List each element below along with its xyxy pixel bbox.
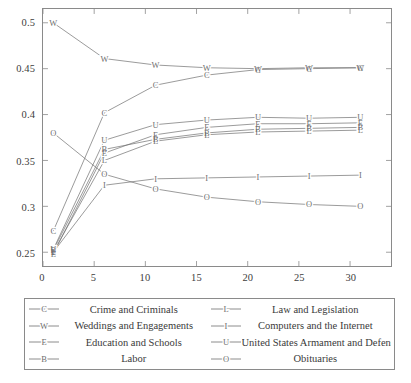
legend-item[interactable]: BBLabor — [28, 351, 210, 368]
legend-label: Weddings and Engagements — [60, 320, 210, 331]
legend-item[interactable]: LLLaw and Legislation — [210, 301, 392, 318]
legend-grid: CCCrime and CriminalsLLLaw and Legislati… — [25, 299, 394, 369]
x-tick-label: 5 — [91, 272, 96, 283]
svg-text:U: U — [222, 337, 228, 347]
x-tick-label: 15 — [191, 272, 202, 283]
legend-item[interactable]: WWWeddings and Engagements — [28, 318, 210, 335]
series-marker: U — [357, 112, 363, 122]
x-tick-label: 25 — [294, 272, 305, 283]
series-marker: O — [101, 169, 107, 179]
series-marker: W — [152, 60, 160, 70]
svg-text:E: E — [41, 337, 46, 347]
legend-label: Labor — [60, 353, 210, 364]
legend-label: Crime and Criminals — [60, 304, 210, 315]
series-marker: U — [255, 112, 261, 122]
series-line — [53, 175, 360, 252]
series-marker: I — [359, 170, 362, 180]
legend-marker-l-icon: LL — [210, 302, 242, 316]
legend-label: Education and Schools — [60, 337, 210, 348]
series-marker: O — [255, 197, 261, 207]
series-marker: O — [153, 184, 159, 194]
legend-label: Law and Legislation — [242, 304, 392, 315]
plot-canvas: CCCCCCCWWWWWWWEEEEEEEBBBBBBBLLLLLLLIIIII… — [43, 9, 391, 266]
x-tick-label: 0 — [39, 272, 44, 283]
series-line — [53, 123, 360, 254]
svg-text:W: W — [40, 321, 48, 331]
series-marker: W — [254, 64, 262, 74]
legend-marker-c-icon: CC — [28, 302, 60, 316]
legend-item[interactable]: IIComputers and the Internet — [210, 318, 392, 335]
y-tick-label: 0.25 — [0, 248, 35, 259]
legend-item[interactable]: CCCrime and Criminals — [28, 301, 210, 318]
series-line — [53, 127, 360, 250]
y-tick-label: 0.45 — [0, 63, 35, 74]
series-marker: U — [204, 115, 210, 125]
legend-marker-i-icon: II — [210, 319, 242, 333]
series-marker: U — [153, 120, 159, 130]
series-marker: C — [102, 108, 108, 118]
svg-text:C: C — [41, 304, 47, 314]
series-marker: I — [154, 174, 157, 184]
legend-label: United States Armament and Defense — [242, 337, 392, 348]
series-marker: W — [203, 63, 211, 73]
svg-text:O: O — [222, 354, 228, 364]
series-marker: U — [306, 113, 312, 123]
series-marker: L — [358, 125, 363, 135]
y-tick-label: 0.5 — [0, 16, 35, 27]
legend-marker-o-icon: OO — [210, 352, 242, 366]
series-marker: L — [153, 136, 158, 146]
legend-marker-b-icon: BB — [28, 352, 60, 366]
series-marker: O — [306, 200, 312, 210]
chart-page: CCCCCCCWWWWWWWEEEEEEEBBBBBBBLLLLLLLIIIII… — [0, 0, 411, 383]
series-marker: W — [356, 63, 364, 73]
series-marker: W — [49, 18, 57, 28]
series-marker: I — [308, 171, 311, 181]
y-tick-label: 0.4 — [0, 109, 35, 120]
svg-text:B: B — [41, 354, 47, 364]
legend-item[interactable]: EEEducation and Schools — [28, 334, 210, 351]
x-tick-label: 10 — [140, 272, 151, 283]
svg-text:I: I — [224, 321, 227, 331]
series-marker: C — [153, 80, 159, 90]
series-marker: L — [204, 130, 209, 140]
series-marker: B — [102, 144, 108, 154]
y-tick-label: 0.35 — [0, 155, 35, 166]
plot-area: CCCCCCCWWWWWWWEEEEEEEBBBBBBBLLLLLLLIIIII… — [42, 8, 392, 267]
series-marker: I — [257, 172, 260, 182]
series-marker: I — [103, 180, 106, 190]
x-tick-label: 20 — [243, 272, 254, 283]
series-marker: L — [102, 155, 107, 165]
legend-label: Computers and the Internet — [242, 320, 392, 331]
series-marker: U — [50, 244, 56, 254]
series-marker: W — [305, 63, 313, 73]
legend-item[interactable]: OOObituaries — [210, 351, 392, 368]
series-marker: U — [101, 135, 107, 145]
series-marker: W — [100, 54, 108, 64]
series-line — [53, 68, 360, 231]
series-marker: I — [205, 173, 208, 183]
legend-marker-w-icon: WW — [28, 319, 60, 333]
series-marker: O — [357, 201, 363, 211]
y-tick-label: 0.3 — [0, 201, 35, 212]
x-tick-label: 30 — [345, 272, 356, 283]
series-marker: L — [255, 127, 260, 137]
legend-marker-e-icon: EE — [28, 335, 60, 349]
legend-marker-u-icon: UU — [210, 335, 242, 349]
svg-text:L: L — [223, 304, 228, 314]
series-marker: C — [50, 226, 56, 236]
legend-label: Obituaries — [242, 353, 392, 364]
series-marker: O — [50, 128, 56, 138]
legend: CCCrime and CriminalsLLLaw and Legislati… — [24, 298, 395, 370]
series-marker: O — [204, 192, 210, 202]
legend-item[interactable]: UUUnited States Armament and Defense — [210, 334, 392, 351]
series-marker: L — [307, 126, 312, 136]
